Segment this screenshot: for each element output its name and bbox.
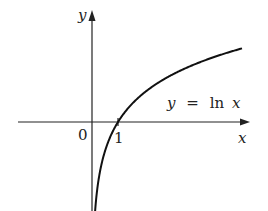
function-label: y = ln x [166, 94, 241, 112]
ln-graph: y x 0 1 y = ln x [0, 0, 268, 211]
function-label-lhs: y [166, 94, 176, 112]
function-label-fn: ln [210, 94, 225, 112]
x-axis-arrow-icon [240, 119, 250, 126]
x-axis-label: x [238, 129, 247, 147]
y-axis-arrow-icon [89, 10, 96, 21]
y-axis-label: y [77, 6, 87, 24]
function-label-eq: = [186, 94, 199, 112]
function-label-arg: x [232, 94, 241, 112]
origin-label: 0 [78, 126, 88, 144]
tick-label-1: 1 [114, 129, 124, 147]
